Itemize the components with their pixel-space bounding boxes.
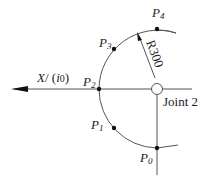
trajectory-arc-top-tail — [157, 30, 176, 33]
label-p3: P3 — [98, 35, 112, 51]
label-p2: P2 — [82, 74, 96, 90]
label-p4: P4 — [151, 5, 165, 21]
point-p2 — [97, 87, 101, 91]
point-p3 — [112, 47, 116, 51]
point-p4 — [155, 27, 159, 31]
radius-label: R300 — [143, 38, 167, 70]
x-axis-arrow-icon — [11, 86, 28, 92]
label-p1: P1 — [90, 117, 103, 133]
point-p0 — [155, 146, 159, 150]
trajectory-diagram: P4 P3 P2 P1 P0 X/ (i0) Joint 2 R300 — [0, 0, 208, 186]
joint-2-circle — [152, 84, 163, 95]
point-p1 — [112, 126, 116, 130]
x-axis-label: X/ (i0) — [36, 70, 69, 85]
joint-2-label: Joint 2 — [163, 94, 198, 109]
label-p0: P0 — [139, 150, 153, 166]
